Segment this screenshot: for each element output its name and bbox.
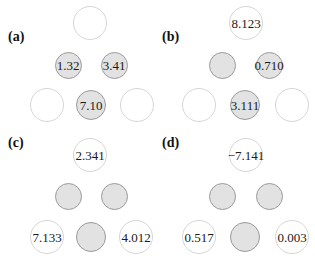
- tree-node-bottom-middle: 3.111: [230, 90, 260, 120]
- tree-node-root: [73, 6, 107, 40]
- tree-node-bottom-right: [120, 88, 154, 122]
- tree-node-mid-right: [101, 183, 128, 210]
- tree-node-root: 2.341: [73, 138, 107, 172]
- tree-node-bottom-middle: [230, 222, 260, 252]
- tree-node-mid-left: [209, 52, 236, 79]
- tree-node-root: 8.123: [229, 6, 263, 40]
- tree-node-mid-left: 1.32: [55, 52, 82, 79]
- tree-node-mid-right: [256, 183, 283, 210]
- tree-node-bottom-right: [275, 88, 309, 122]
- tree-node-mid-right: 0.710: [256, 52, 283, 79]
- tree-node-bottom-left: 0.517: [182, 220, 216, 254]
- tree-node-bottom-left: [30, 88, 64, 122]
- tree-node-bottom-left: [182, 88, 216, 122]
- tree-node-bottom-right: 0.003: [275, 220, 309, 254]
- tree-node-bottom-right: 4.012: [119, 220, 153, 254]
- tree-node-mid-right: 3.41: [101, 52, 128, 79]
- panel-label: (c): [8, 136, 24, 150]
- tree-node-bottom-left: 7.133: [30, 220, 64, 254]
- panel-label: (b): [162, 30, 179, 44]
- tree-node-mid-left: [209, 183, 236, 210]
- tree-node-root: −7.141: [229, 138, 263, 172]
- panel-label: (a): [8, 30, 24, 44]
- panel-label: (d): [162, 136, 179, 150]
- tree-node-bottom-middle: 7.10: [76, 90, 106, 120]
- tree-node-mid-left: [55, 183, 82, 210]
- tree-node-bottom-middle: [76, 222, 106, 252]
